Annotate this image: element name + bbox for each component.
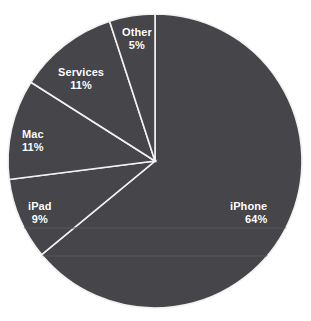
- pie-chart: iPhone64%iPad9%Mac11%Services11%Other5%: [0, 0, 311, 321]
- pie-label-ipad: iPad9%: [28, 200, 52, 226]
- pie-label-name: iPhone: [230, 200, 267, 213]
- pie-label-name: Services: [58, 66, 104, 79]
- pie-label-name: Other: [122, 26, 152, 39]
- pie-label-value: 9%: [28, 213, 52, 226]
- pie-slices-group: [8, 14, 302, 308]
- pie-label-services: Services11%: [58, 66, 104, 92]
- pie-chart-canvas: [0, 0, 311, 321]
- pie-label-value: 5%: [122, 39, 152, 52]
- pie-label-value: 11%: [58, 79, 104, 92]
- pie-label-name: iPad: [28, 200, 52, 213]
- pie-label-other: Other5%: [122, 26, 152, 52]
- pie-label-mac: Mac11%: [22, 128, 44, 154]
- pie-label-value: 11%: [22, 141, 44, 154]
- pie-label-value: 64%: [230, 213, 267, 226]
- pie-label-name: Mac: [22, 128, 44, 141]
- pie-label-iphone: iPhone64%: [230, 200, 267, 226]
